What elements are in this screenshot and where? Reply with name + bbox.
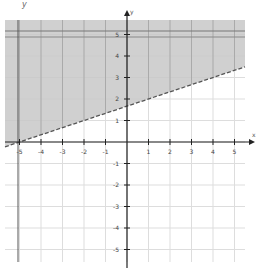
y-tick-label: 5 — [115, 31, 119, 38]
x-tick-label: -1 — [103, 148, 109, 155]
x-tick-label: 3 — [190, 148, 194, 155]
x-tick-label: 1 — [147, 148, 151, 155]
x-tick-label: -3 — [60, 148, 66, 155]
y-tick-label: -2 — [113, 181, 119, 188]
y-tick-label: 3 — [115, 74, 119, 81]
x-tick-label: 5 — [233, 148, 237, 155]
x-tick-label: 2 — [168, 148, 172, 155]
y-tick-label: -5 — [113, 246, 119, 253]
inequality-plot: xy-5-4-3-2-112345-5-4-3-2-112345 — [0, 0, 261, 274]
y-axis-label: y — [130, 8, 134, 16]
x-tick-label: -2 — [81, 148, 87, 155]
y-tick-label: 1 — [115, 117, 119, 124]
x-axis-label: x — [252, 131, 256, 138]
x-tick-label: -5 — [17, 148, 23, 155]
x-tick-label: -4 — [38, 148, 44, 155]
y-tick-label: -4 — [113, 224, 119, 231]
x-axis-arrow-icon — [249, 139, 255, 145]
x-tick-label: 4 — [211, 148, 215, 155]
y-tick-label: 2 — [115, 95, 119, 102]
y-tick-label: -1 — [113, 160, 119, 167]
y-tick-label: 4 — [115, 52, 119, 59]
y-tick-label: -3 — [113, 203, 119, 210]
